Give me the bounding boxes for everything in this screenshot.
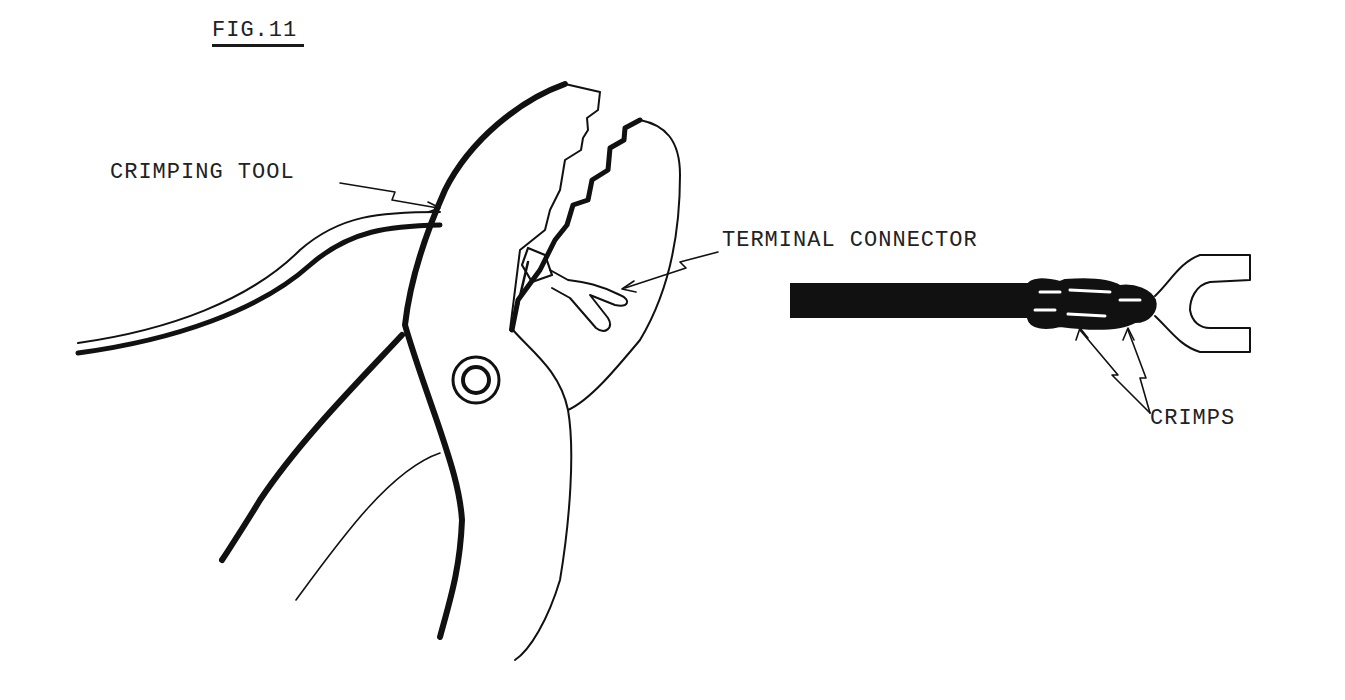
crimp-barrel [1028, 279, 1156, 328]
diagram-canvas: FIG.11 CRIMPING TOOL TERMINAL CONNECTOR … [0, 0, 1345, 700]
crimped-cable [790, 283, 1030, 318]
pivot-bolt-icon [453, 357, 499, 403]
terminal-in-jaws [512, 248, 627, 331]
spade-terminal [1155, 255, 1250, 352]
tool-upper-jaw [405, 84, 600, 637]
leader-terminal-connector [622, 252, 718, 292]
tool-lower-jaw [512, 120, 680, 660]
illustration [0, 0, 1345, 700]
tool-handles [222, 335, 440, 600]
leader-crimping-tool [340, 183, 440, 212]
leader-crimps [1076, 328, 1150, 413]
wire-left [78, 212, 440, 353]
